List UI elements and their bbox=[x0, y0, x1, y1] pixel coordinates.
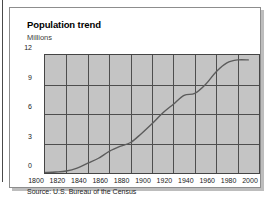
card-shadow-right bbox=[261, 10, 264, 191]
population-curve bbox=[45, 60, 248, 173]
y-axis-tick-label: 6 bbox=[6, 103, 32, 110]
y-axis-tick-label: 12 bbox=[6, 44, 32, 51]
y-axis-tick-label: 3 bbox=[6, 133, 32, 140]
chart-axis-unit-label: Millions bbox=[27, 33, 52, 42]
chart-card: Population trend Millions Source: U.S. B… bbox=[9, 7, 261, 188]
chart-source-note: Source: U.S. Bureau of the Census bbox=[27, 188, 136, 195]
y-axis-tick-label: 9 bbox=[6, 74, 32, 81]
chart-figure: Population trend Millions Source: U.S. B… bbox=[0, 0, 274, 201]
chart-title: Population trend bbox=[27, 19, 101, 30]
data-series-line bbox=[45, 55, 259, 173]
left-edge-rule bbox=[2, 0, 3, 182]
y-axis-tick-label: 0 bbox=[6, 162, 32, 169]
plot-area bbox=[44, 54, 260, 174]
x-axis-tick-label: 2000 bbox=[235, 177, 265, 184]
